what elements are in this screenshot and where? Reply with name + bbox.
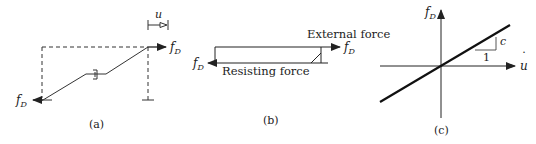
x-axis-dot: ˙: [521, 51, 527, 65]
damper-figure: fD fD u (a) External force Resisting for…: [0, 0, 536, 144]
displacement-label: u: [155, 8, 162, 21]
caption-b: (b): [263, 114, 279, 127]
external-force-label: External force: [307, 27, 391, 41]
force-label-left: fD: [15, 93, 27, 109]
force-label-left: fD: [192, 56, 204, 72]
caption-c: (c): [434, 124, 449, 137]
y-axis-label: fD: [424, 5, 436, 21]
force-velocity-line: [380, 25, 510, 102]
caption-a: (a): [89, 118, 104, 131]
panel-a: fD fD u (a): [15, 8, 181, 131]
force-label-right: fD: [343, 40, 355, 56]
force-label-right: fD: [169, 40, 181, 56]
slope-label: c: [500, 35, 506, 48]
displacement-indicator: [148, 20, 168, 30]
panel-b: External force Resisting force fD fD (b): [192, 27, 391, 127]
run-label: 1: [483, 51, 490, 64]
free-body-lines: [215, 47, 321, 63]
panel-c: c 1 fD u ˙ (c): [380, 5, 528, 137]
dashpot-element: [43, 47, 148, 100]
resisting-force-label: Resisting force: [222, 64, 310, 78]
